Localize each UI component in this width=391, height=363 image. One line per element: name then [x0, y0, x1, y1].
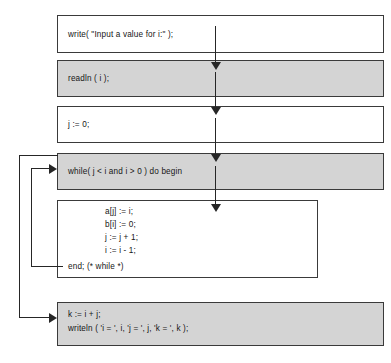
arrow-head-loop-back-inner: [49, 164, 57, 174]
flow-line-while-to-body: [215, 166, 216, 206]
arrow-head-write-to-readln: [211, 62, 221, 70]
flow-line-write-to-readln: [215, 26, 216, 64]
statement-text-loop-body-line-4: i := i - 1;: [105, 246, 136, 255]
statement-text-while-head: while( j < i and i > 0 ) do begin: [68, 167, 182, 176]
loop-exit-outer-bottom-segment: [19, 317, 52, 318]
arrow-head-initj-to-while: [211, 154, 221, 162]
statement-text-readln: readln ( i );: [68, 74, 109, 83]
arrow-head-while-to-body: [211, 204, 221, 212]
arrow-head-loop-exit-outer: [49, 313, 57, 323]
loop-back-inner-vertical-segment: [31, 168, 32, 267]
statement-text-loop-body-line-5: end; (* while *): [68, 262, 124, 271]
flowchart-canvas: write( "Input a value for i:" ); readln …: [0, 0, 391, 363]
loop-exit-outer-top-segment: [19, 155, 58, 156]
statement-text-final-line-2: writeln ( 'i = ', i, 'j = ', j, 'k = ', …: [68, 324, 188, 333]
loop-back-inner-bottom-segment: [31, 266, 63, 267]
statement-text-init-j: j := 0;: [68, 120, 89, 129]
arrow-head-readln-to-initj: [211, 107, 221, 115]
flow-line-readln-to-initj: [215, 72, 216, 109]
statement-text-loop-body-line-2: b[i] := 0;: [105, 220, 136, 229]
statement-text-loop-body-line-1: a[j] := i;: [105, 207, 133, 216]
loop-exit-outer-vertical-segment: [19, 155, 20, 318]
statement-text-loop-body-line-3: j := j + 1;: [105, 233, 138, 242]
statement-text-final-line-1: k := i + j;: [68, 310, 101, 319]
statement-text-write-prompt: write( "Input a value for i:" );: [68, 30, 173, 39]
flow-line-initj-to-while: [215, 118, 216, 156]
